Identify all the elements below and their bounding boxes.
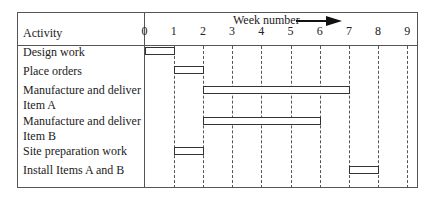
week-tick-5: 5 xyxy=(288,24,294,39)
week-gridline xyxy=(407,46,408,188)
week-tick-1: 1 xyxy=(171,24,177,39)
week-tick-4: 4 xyxy=(258,24,264,39)
gantt-bar xyxy=(145,47,175,55)
week-tick-3: 3 xyxy=(229,24,235,39)
activity-label: Site preparation work xyxy=(23,144,127,159)
activity-label: Place orders xyxy=(23,64,82,79)
gantt-bar xyxy=(203,86,350,94)
activity-column-header: Activity xyxy=(23,26,62,41)
gantt-bar xyxy=(349,166,379,174)
week-tick-7: 7 xyxy=(346,24,352,39)
week-tick-6: 6 xyxy=(317,24,323,39)
gantt-bar xyxy=(203,117,321,125)
gantt-bar xyxy=(174,147,204,155)
activity-label-line: Item A xyxy=(23,98,141,113)
week-tick-0: 0 xyxy=(142,24,148,39)
activity-label: Design work xyxy=(23,45,85,60)
activity-label: Manufacture and deliver Item A xyxy=(23,83,141,113)
week-tick-8: 8 xyxy=(375,24,381,39)
activity-label: Manufacture and deliver Item B xyxy=(23,114,141,144)
gantt-bar xyxy=(174,66,204,74)
activity-label-line: Manufacture and deliver xyxy=(23,83,141,98)
activity-label-line: Manufacture and deliver xyxy=(23,114,141,129)
week-tick-2: 2 xyxy=(200,24,206,39)
week-tick-9: 9 xyxy=(404,24,410,39)
activity-label-line: Item B xyxy=(23,129,141,144)
activity-label: Install Items A and B xyxy=(23,163,124,178)
